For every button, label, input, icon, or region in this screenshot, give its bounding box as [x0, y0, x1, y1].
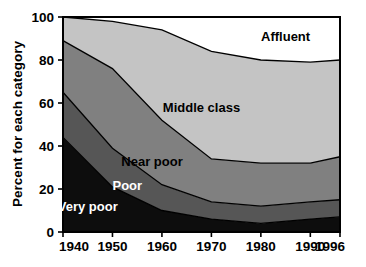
- y-tick-label: 60: [39, 96, 54, 111]
- y-tick-label: 20: [39, 182, 54, 197]
- x-tick-label: 1970: [196, 239, 226, 254]
- x-tick-label: 1940: [59, 239, 89, 254]
- series-label-poor: Poor: [112, 178, 142, 193]
- series-label-near-poor: Near poor: [121, 154, 182, 169]
- series-label-affluent: Affluent: [261, 29, 311, 44]
- x-tick-label: 1996: [315, 239, 346, 254]
- y-axis-title: Percent for each category: [10, 41, 25, 207]
- y-tick-label: 40: [39, 139, 54, 154]
- y-tick-label: 0: [46, 225, 54, 240]
- x-tick-label: 1960: [147, 239, 177, 254]
- y-tick-label: 80: [39, 53, 54, 68]
- series-label-middle-class: Middle class: [163, 100, 240, 115]
- y-tick-label: 100: [31, 10, 54, 25]
- chart-canvas: 020406080100 194019501960197019801990199…: [0, 0, 366, 267]
- x-tick-label: 1950: [97, 239, 127, 254]
- x-axis-ticks: 1940195019601970198019901996: [59, 232, 345, 254]
- x-tick-label: 1980: [246, 239, 276, 254]
- stacked-area-chart: 020406080100 194019501960197019801990199…: [0, 0, 366, 267]
- series-label-very-poor: Very poor: [58, 199, 118, 214]
